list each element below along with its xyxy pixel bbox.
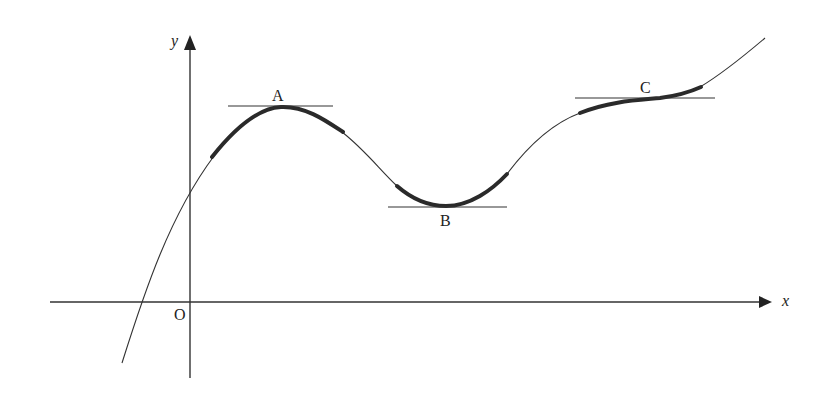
y-axis	[184, 35, 196, 378]
min-region-highlight	[397, 174, 507, 206]
max-region-highlight	[212, 107, 343, 157]
function-curve	[122, 38, 765, 363]
y-axis-arrow-icon	[184, 35, 196, 50]
x-axis	[50, 296, 772, 308]
origin-label: O	[174, 306, 186, 323]
x-axis-label: x	[781, 292, 789, 309]
point-label-c: C	[640, 79, 651, 96]
point-label-a: A	[272, 87, 284, 104]
point-label-b: B	[440, 212, 451, 229]
x-axis-arrow-icon	[759, 296, 772, 308]
y-axis-label: y	[169, 32, 179, 50]
curve-diagram: x y O A B C	[0, 0, 832, 403]
